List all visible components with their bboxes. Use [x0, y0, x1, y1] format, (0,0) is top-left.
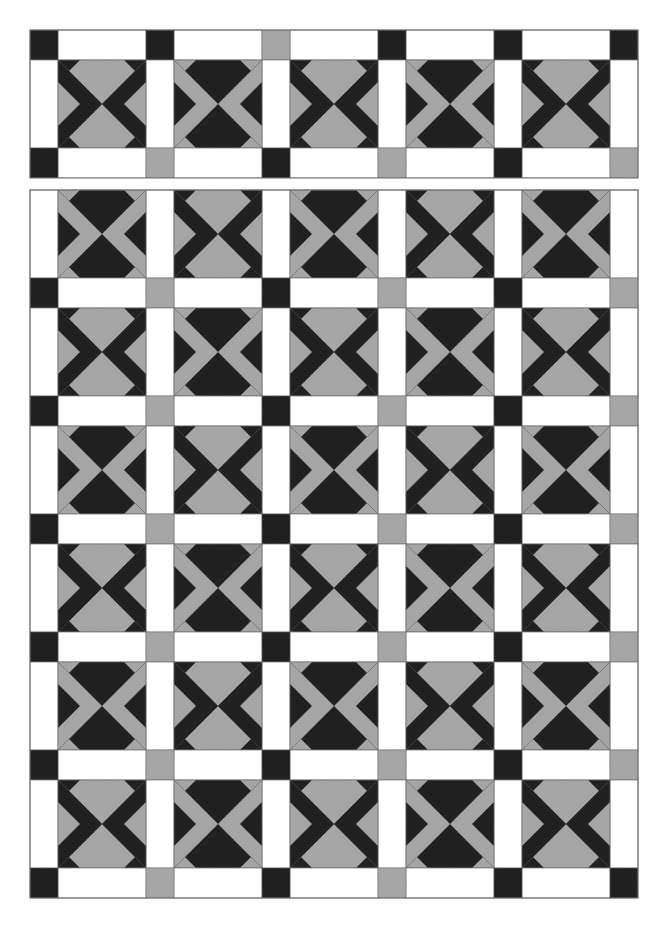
- dark-x-pinwheel-block: [58, 308, 146, 396]
- cornerstone-square: [146, 148, 174, 178]
- sashing-strip: [290, 148, 378, 178]
- cornerstone-square: [610, 30, 638, 60]
- gray-x-pinwheel-block: [522, 426, 610, 514]
- cornerstone-square: [494, 514, 522, 544]
- sashing-strip: [522, 750, 610, 780]
- sashing-strip: [522, 30, 610, 60]
- vertical-sashing: [146, 544, 174, 632]
- main-field-block-row: [30, 780, 638, 868]
- vertical-sashing: [30, 544, 58, 632]
- vertical-sashing: [378, 308, 406, 396]
- sashing-strip: [58, 632, 146, 662]
- gray-x-pinwheel-block: [58, 190, 146, 278]
- vertical-sashing: [30, 60, 58, 148]
- vertical-sashing: [494, 780, 522, 868]
- vertical-sashing: [262, 544, 290, 632]
- sashing-strip: [58, 148, 146, 178]
- vertical-sashing: [610, 780, 638, 868]
- cornerstone-square: [262, 30, 290, 60]
- gray-x-pinwheel-block: [522, 190, 610, 278]
- vertical-sashing: [146, 190, 174, 278]
- top-band-block-row: [30, 60, 638, 148]
- sashing-strip: [174, 514, 262, 544]
- cornerstone-square: [610, 868, 638, 898]
- vertical-sashing: [494, 308, 522, 396]
- sashing-strip: [58, 396, 146, 426]
- gray-x-pinwheel-block: [406, 780, 494, 868]
- cornerstone-square: [378, 632, 406, 662]
- sashing-strip: [522, 514, 610, 544]
- inner-sashing-row: [30, 750, 638, 780]
- cornerstone-square: [494, 30, 522, 60]
- gray-x-pinwheel-block: [406, 308, 494, 396]
- panel-gap: [0, 178, 669, 190]
- sashing-strip: [290, 750, 378, 780]
- dark-x-pinwheel-block: [406, 190, 494, 278]
- dark-x-pinwheel-block: [522, 308, 610, 396]
- sashing-strip: [174, 148, 262, 178]
- sashing-strip: [58, 868, 146, 898]
- cornerstone-square: [30, 30, 58, 60]
- cornerstone-square: [494, 148, 522, 178]
- gray-x-pinwheel-block: [174, 780, 262, 868]
- cornerstone-square: [378, 868, 406, 898]
- sashing-strip: [406, 396, 494, 426]
- sashing-strip: [174, 632, 262, 662]
- cornerstone-square: [146, 30, 174, 60]
- cornerstone-square: [146, 396, 174, 426]
- cornerstone-square: [146, 750, 174, 780]
- main-field-block-row: [30, 662, 638, 750]
- quilt-svg-surface: [0, 0, 669, 942]
- vertical-sashing: [262, 60, 290, 148]
- sashing-strip: [522, 396, 610, 426]
- gray-x-pinwheel-block: [58, 662, 146, 750]
- vertical-sashing: [30, 780, 58, 868]
- dark-x-pinwheel-block: [406, 426, 494, 514]
- vertical-sashing: [610, 60, 638, 148]
- sashing-strip: [522, 278, 610, 308]
- vertical-sashing: [30, 662, 58, 750]
- vertical-sashing: [30, 190, 58, 278]
- cornerstone-square: [30, 148, 58, 178]
- dark-x-pinwheel-block: [290, 780, 378, 868]
- vertical-sashing: [494, 662, 522, 750]
- vertical-sashing: [146, 662, 174, 750]
- sashing-strip: [522, 868, 610, 898]
- cornerstone-square: [610, 278, 638, 308]
- sashing-strip: [174, 278, 262, 308]
- sashing-strip: [290, 278, 378, 308]
- cornerstone-square: [494, 396, 522, 426]
- sashing-strip: [290, 868, 378, 898]
- gray-x-pinwheel-block: [406, 544, 494, 632]
- dark-x-pinwheel-block: [290, 60, 378, 148]
- sashing-strip: [290, 514, 378, 544]
- sashing-strip: [406, 514, 494, 544]
- vertical-sashing: [262, 308, 290, 396]
- sashing-strip: [58, 514, 146, 544]
- cornerstone-square: [378, 148, 406, 178]
- gray-x-pinwheel-block: [522, 662, 610, 750]
- sashing-strip: [406, 278, 494, 308]
- sashing-strip: [406, 750, 494, 780]
- gray-x-pinwheel-block: [290, 662, 378, 750]
- inner-sashing-row: [30, 396, 638, 426]
- dark-x-pinwheel-block: [290, 308, 378, 396]
- vertical-sashing: [378, 60, 406, 148]
- vertical-sashing: [30, 426, 58, 514]
- cornerstone-square: [378, 278, 406, 308]
- dark-x-pinwheel-block: [522, 544, 610, 632]
- quilt-layers: [0, 30, 669, 898]
- sashing-strip: [174, 30, 262, 60]
- vertical-sashing: [262, 662, 290, 750]
- gray-x-pinwheel-block: [174, 308, 262, 396]
- inner-sashing-row: [30, 632, 638, 662]
- vertical-sashing: [378, 426, 406, 514]
- vertical-sashing: [378, 190, 406, 278]
- cornerstone-square: [262, 514, 290, 544]
- top-sashing-row: [30, 30, 638, 60]
- gray-x-pinwheel-block: [58, 426, 146, 514]
- vertical-sashing: [610, 308, 638, 396]
- cornerstone-square: [378, 514, 406, 544]
- vertical-sashing: [610, 662, 638, 750]
- sashing-strip: [290, 396, 378, 426]
